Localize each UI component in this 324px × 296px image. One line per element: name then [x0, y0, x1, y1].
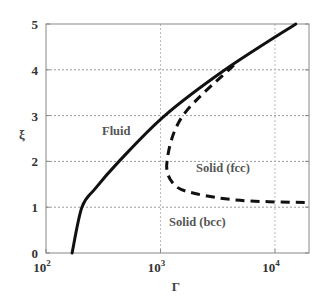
- region-label-solid-bcc: Solid (bcc): [169, 215, 226, 229]
- region-label-solid-fcc: Solid (fcc): [196, 161, 250, 175]
- bcc-fcc-boundary-line: [167, 65, 306, 202]
- y-tick-label: 0: [32, 246, 39, 261]
- x-tick-label: 104: [262, 258, 280, 275]
- y-tick-label: 3: [32, 109, 39, 124]
- phase-diagram-chart: 012345 102103104 Fluid Solid (fcc) Solid…: [0, 0, 324, 296]
- y-axis-label: ξ: [19, 127, 25, 142]
- x-tick-label: 102: [33, 258, 51, 275]
- y-tick-label: 1: [32, 200, 39, 215]
- y-tick-label: 4: [32, 63, 39, 78]
- region-label-fluid: Fluid: [102, 124, 131, 138]
- x-axis-label: Γ: [172, 279, 180, 294]
- y-tick-label: 5: [32, 17, 39, 32]
- y-tick-label: 2: [32, 154, 39, 169]
- x-tick-label: 103: [148, 258, 166, 275]
